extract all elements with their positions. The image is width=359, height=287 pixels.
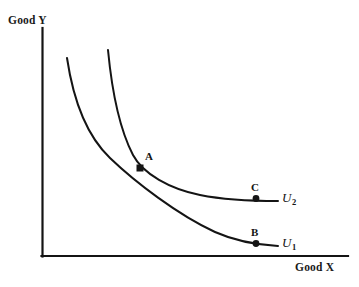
x-axis-label: Good X — [295, 261, 334, 273]
point-label-b: B — [251, 226, 258, 238]
curve-label-u2-base: U — [282, 190, 291, 205]
point-marker-b — [253, 240, 260, 247]
curve-label-u1-base: U — [282, 235, 291, 250]
point-marker-c — [253, 195, 260, 202]
y-axis-label: Good Y — [8, 14, 47, 26]
curve-label-u2: U2 — [282, 190, 296, 206]
point-marker-a — [137, 165, 144, 172]
chart-canvas — [0, 0, 359, 287]
curve-label-u2-subscript: 2 — [292, 197, 296, 207]
curve-label-u1-subscript: 1 — [292, 242, 296, 252]
point-label-a: A — [145, 150, 153, 162]
indifference-curve-u1 — [67, 58, 278, 246]
point-label-c: C — [251, 181, 259, 193]
curve-label-u1: U1 — [282, 235, 296, 251]
indifference-curve-figure: Good Y Good X A C B U1 U2 — [0, 0, 359, 287]
